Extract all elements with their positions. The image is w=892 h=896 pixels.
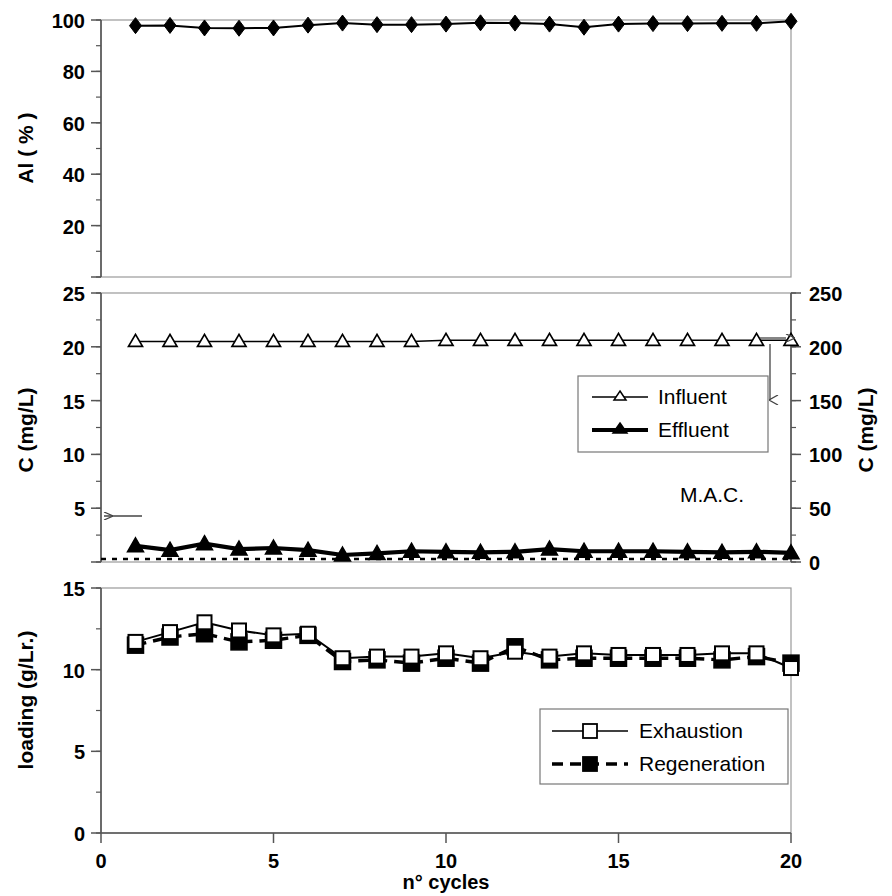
open-square-marker bbox=[439, 646, 453, 660]
ytick-label: 100 bbox=[809, 444, 842, 466]
multi-panel-chart: 20406080100 Al ( % ) 510152025 050100150… bbox=[0, 0, 892, 896]
ytick-label: 20 bbox=[63, 337, 85, 359]
open-square-marker bbox=[129, 635, 143, 649]
mac-label: M.A.C. bbox=[680, 483, 744, 506]
open-square-marker bbox=[577, 646, 591, 660]
open-square-marker bbox=[267, 628, 281, 642]
panel-top-ylabel: Al ( % ) bbox=[14, 112, 37, 183]
ytick-label: 40 bbox=[63, 164, 85, 186]
filled-square-icon bbox=[583, 757, 597, 771]
figure-root: 20406080100 Al ( % ) 510152025 050100150… bbox=[0, 0, 892, 896]
ytick-label: 60 bbox=[63, 113, 85, 135]
open-square-marker bbox=[370, 650, 384, 664]
xtick-label: 15 bbox=[607, 850, 629, 872]
open-square-marker bbox=[198, 615, 212, 629]
ytick-label: 80 bbox=[63, 61, 85, 83]
ytick-label: 0 bbox=[74, 823, 85, 845]
ytick-label: 5 bbox=[74, 741, 85, 763]
legend-middle[interactable]: Influent Effluent bbox=[578, 376, 768, 452]
ytick-label: 100 bbox=[52, 10, 85, 32]
legend-bottom[interactable]: Exhaustion Regeneration bbox=[540, 709, 788, 784]
open-square-marker bbox=[646, 648, 660, 662]
open-square-marker bbox=[405, 650, 419, 664]
open-square-marker bbox=[163, 625, 177, 639]
ytick-label: 250 bbox=[809, 283, 842, 305]
ytick-label: 10 bbox=[63, 444, 85, 466]
ytick-label: 200 bbox=[809, 337, 842, 359]
ytick-label: 5 bbox=[74, 498, 85, 520]
xtick-label: 10 bbox=[435, 850, 457, 872]
open-square-marker bbox=[543, 650, 557, 664]
open-square-marker bbox=[750, 646, 764, 660]
open-square-marker bbox=[681, 648, 695, 662]
ytick-label: 150 bbox=[809, 391, 842, 413]
open-square-marker bbox=[301, 627, 315, 641]
ytick-label: 20 bbox=[63, 216, 85, 238]
open-square-marker bbox=[612, 648, 626, 662]
open-square-marker bbox=[508, 645, 522, 659]
ytick-label: 50 bbox=[809, 498, 831, 520]
open-square-marker bbox=[715, 646, 729, 660]
ytick-label: 0 bbox=[809, 552, 820, 574]
legend-exhaustion-label: Exhaustion bbox=[639, 719, 743, 742]
open-square-marker bbox=[336, 651, 350, 665]
ytick-label: 10 bbox=[63, 660, 85, 682]
open-square-marker bbox=[474, 651, 488, 665]
panel-middle-ylabel-right: C (mg/L) bbox=[854, 387, 877, 472]
xtick-label: 5 bbox=[268, 850, 279, 872]
open-square-marker bbox=[232, 623, 246, 637]
ytick-label: 15 bbox=[63, 391, 85, 413]
panel-middle-ylabel: C (mg/L) bbox=[14, 387, 37, 472]
open-square-icon bbox=[583, 724, 597, 738]
ytick-label: 25 bbox=[63, 283, 85, 305]
xtick-label: 20 bbox=[780, 850, 802, 872]
panel-bottom-ylabel: loading (g/Lr.) bbox=[14, 631, 37, 770]
xtick-label: 0 bbox=[95, 850, 106, 872]
xaxis-title: n° cycles bbox=[403, 871, 490, 893]
ytick-label: 15 bbox=[63, 578, 85, 600]
open-square-marker bbox=[784, 661, 798, 675]
legend-influent-label: Influent bbox=[658, 385, 727, 408]
legend-effluent-label: Effluent bbox=[658, 418, 729, 441]
legend-regeneration-label: Regeneration bbox=[639, 752, 765, 775]
